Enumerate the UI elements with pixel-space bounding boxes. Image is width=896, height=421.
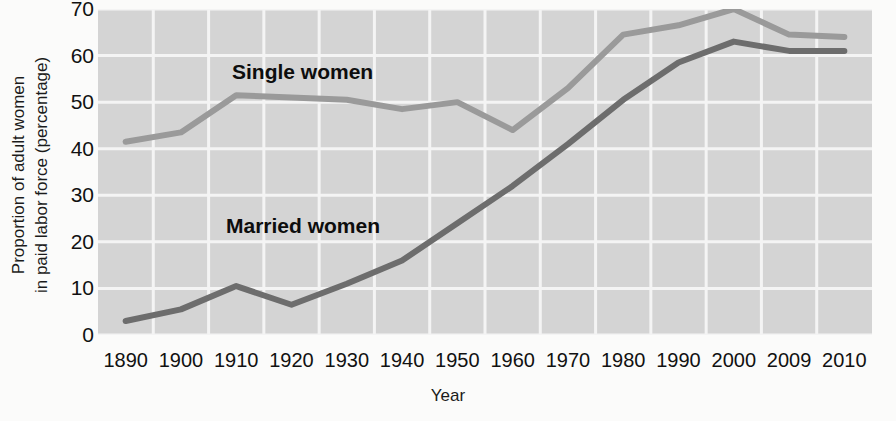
x-axis-tick-label: 2010	[822, 349, 867, 372]
y-axis-tick-label: 10	[60, 276, 94, 300]
y-axis-tick-label: 0	[60, 323, 94, 347]
y-axis-title-line-1: Proportion of adult women	[8, 57, 31, 293]
y-axis-tick-label: 70	[60, 0, 94, 21]
series-canvas	[98, 9, 872, 335]
x-axis-tick-label: 1900	[159, 349, 204, 372]
plot-area	[98, 9, 872, 335]
x-axis-title: Year	[0, 386, 896, 406]
x-axis-tick-label: 2000	[712, 349, 757, 372]
gridlines	[98, 9, 872, 335]
chart-figure: Proportion of adult women in paid labor …	[0, 0, 896, 421]
series-annotation: Single women	[232, 60, 373, 84]
x-axis-tick-label: 1940	[380, 349, 425, 372]
y-axis-tick-labels: 010203040506070	[56, 0, 94, 421]
x-axis-tick-label: 1960	[490, 349, 535, 372]
y-axis-title-line-2: in paid labor force (percentage)	[31, 57, 54, 293]
x-axis-tick-label: 2009	[767, 349, 812, 372]
y-axis-tick-label: 60	[60, 44, 94, 68]
y-axis-tick-label: 30	[60, 183, 94, 207]
x-axis-tick-label: 1910	[214, 349, 259, 372]
x-axis-tick-label: 1920	[269, 349, 314, 372]
y-axis-tick-label: 20	[60, 230, 94, 254]
x-axis-tick-label: 1890	[103, 349, 148, 372]
y-axis-title: Proportion of adult women in paid labor …	[0, 0, 62, 350]
x-axis-tick-label: 1930	[325, 349, 370, 372]
x-axis-tick-label: 1950	[435, 349, 480, 372]
x-axis-tick-label: 1970	[546, 349, 591, 372]
x-axis-tick-label: 1980	[601, 349, 646, 372]
y-axis-tick-label: 50	[60, 90, 94, 114]
series-annotation: Married women	[226, 214, 380, 238]
y-axis-tick-label: 40	[60, 137, 94, 161]
x-axis-tick-label: 1990	[656, 349, 701, 372]
